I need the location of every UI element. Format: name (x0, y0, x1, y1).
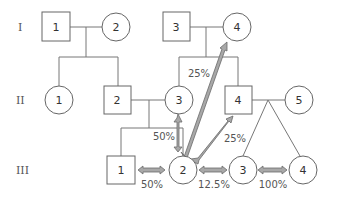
generation-label-I: I (18, 21, 22, 34)
relatedness-arrow-III3-III4 (258, 166, 287, 174)
individual-label: 2 (180, 164, 187, 177)
individual-I-2: 2 (102, 13, 130, 41)
relatedness-label-III1-III2: 50% (141, 179, 163, 190)
relatedness-label-III2-I4: 25% (188, 68, 210, 79)
individual-label: 1 (53, 21, 60, 34)
individual-II-2: 2 (104, 86, 131, 114)
individual-II-1: 1 (45, 86, 73, 114)
individual-label: 4 (234, 21, 241, 34)
relatedness-label-III3-III4: 100% (259, 179, 288, 190)
individual-III-2: 2 (169, 156, 197, 184)
individual-I-1: 1 (42, 12, 70, 41)
individual-label: 1 (56, 94, 63, 107)
individual-II-5: 5 (285, 86, 313, 114)
relatedness-label-III2-II4: 25% (224, 133, 246, 144)
individual-I-4: 4 (223, 13, 251, 41)
individual-label: 4 (300, 164, 307, 177)
individual-label: 3 (176, 94, 183, 107)
individual-label: 1 (118, 164, 125, 177)
relatedness-label-III2-II3: 50% (153, 131, 175, 142)
individual-label: 5 (296, 94, 303, 107)
relatedness-arrow-III2-III3 (199, 166, 227, 174)
individual-label: 3 (173, 21, 180, 34)
individual-I-3: 3 (163, 12, 190, 41)
individual-label: 3 (240, 164, 247, 177)
individual-label: 4 (235, 94, 242, 107)
individual-III-4: 4 (289, 156, 317, 184)
relatedness-arrow-III1-III2 (138, 166, 165, 174)
pedigree-diagram: I II III 1 2 3 4 1 2 (0, 0, 339, 199)
individual-III-1: 1 (107, 156, 135, 184)
relatedness-arrow-III2-II3 (174, 114, 182, 152)
relatedness-label-III2-III3: 12.5% (198, 179, 230, 190)
individual-label: 2 (114, 94, 121, 107)
individual-III-3: 3 (229, 156, 257, 184)
individual-II-4: 4 (225, 86, 252, 114)
individual-II-3: 3 (165, 86, 193, 114)
individual-label: 2 (113, 21, 120, 34)
generation-label-II: II (16, 94, 25, 107)
generation-label-III: III (16, 164, 29, 177)
